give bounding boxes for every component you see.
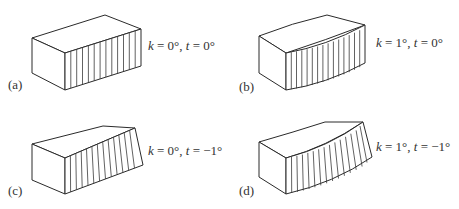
panel-b: k = 1°, t = 0° (b) [239,15,443,94]
panel-d-tag: (d) [239,183,254,198]
block-a [32,15,141,90]
panel-c: k = 0°, t = −1° (c) [8,126,222,198]
panel-c-tag: (c) [8,183,22,198]
panel-c-params: k = 0°, t = −1° [148,143,222,158]
block-b [259,15,365,90]
panel-d: k = 1°, t = −1° (d) [239,122,450,198]
panel-b-params: k = 1°, t = 0° [376,35,443,50]
block-d [259,122,372,194]
panel-d-params: k = 1°, t = −1° [376,139,450,154]
panel-a: k = 0°, t = 0° (a) [8,15,215,92]
panel-b-tag: (b) [239,79,254,94]
block-c [32,126,143,194]
figure-canvas: k = 0°, t = 0° (a) [0,0,459,209]
panel-a-params: k = 0°, t = 0° [148,38,215,53]
panel-a-tag: (a) [8,77,22,92]
